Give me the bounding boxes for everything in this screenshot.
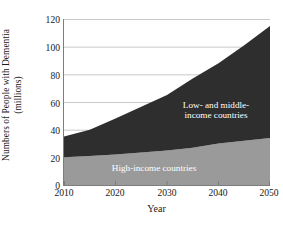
y-tick-60: 60 [30, 99, 60, 109]
x-axis-title-text: Year [147, 203, 165, 214]
y-tick-100: 100 [30, 43, 60, 53]
y-tick-20: 20 [30, 154, 60, 164]
x-tick-2050: 2050 [259, 188, 278, 198]
x-tick-2040: 2040 [208, 188, 227, 198]
y-axis-title-line1: Numbers of People with Dementia [1, 14, 13, 176]
x-tick-2020: 2020 [105, 188, 124, 198]
dementia-projection-figure: Numbers of People with Dementia (million… [0, 0, 283, 227]
y-tick-40: 40 [30, 126, 60, 136]
area-low-and-middle-income-countries [64, 26, 270, 157]
x-tick-2010: 2010 [54, 188, 73, 198]
x-axis-tick-labels: 2010 2020 2030 2040 2050 [0, 188, 283, 202]
area-chart-svg [64, 19, 270, 185]
x-tick-2030: 2030 [157, 188, 176, 198]
y-axis-title: Numbers of People with Dementia (million… [0, 0, 34, 190]
y-tick-120: 120 [30, 15, 60, 25]
x-axis-title: Year [0, 203, 283, 214]
plot-area: Low- and middle- income countries High-i… [64, 19, 270, 185]
x-axis-line [63, 185, 270, 186]
y-tick-80: 80 [30, 71, 60, 81]
y-axis-title-line2: (millions) [13, 14, 25, 176]
